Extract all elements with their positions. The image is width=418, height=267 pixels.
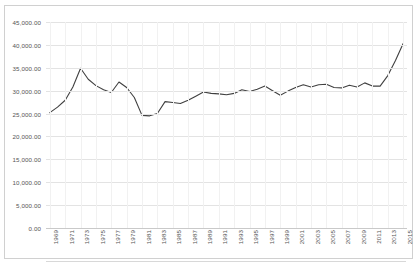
gridline-40000 [46, 45, 407, 46]
y-tick-label: 40,000.00 [13, 41, 41, 48]
line-series [46, 22, 407, 228]
x-tick-1975 [96, 22, 97, 228]
chart-container: 45,000.0040,000.0035,000.0030,000.0025,0… [0, 0, 418, 267]
x-tick-1999 [280, 22, 281, 228]
y-tick-label: 25,000.00 [13, 110, 41, 117]
x-tick-label: 1985 [175, 230, 182, 244]
y-tick-label: 0.00 [29, 225, 41, 232]
series-polyline [50, 44, 403, 116]
gridline-45000 [46, 22, 407, 23]
gridline-10000 [46, 182, 407, 183]
x-tick-2003 [311, 22, 312, 228]
x-tick-1969 [50, 22, 51, 228]
gridline-15000 [46, 159, 407, 160]
x-tick-label: 1979 [129, 230, 136, 244]
x-tick-label: 1991 [221, 230, 228, 244]
y-tick-label: 10,000.00 [13, 179, 41, 186]
x-tick-label: 1969 [52, 230, 59, 244]
x-tick-label: 1987 [191, 230, 198, 244]
x-tick-label: 1977 [114, 230, 121, 244]
y-tick-label: 35,000.00 [13, 64, 41, 71]
x-tick-1997 [265, 22, 266, 228]
x-tick-label: 1997 [268, 230, 275, 244]
gridline-35000 [46, 68, 407, 69]
y-tick-label: 5,000.00 [16, 202, 41, 209]
x-tick-1977 [111, 22, 112, 228]
x-tick-label: 1993 [237, 230, 244, 244]
x-tick-1991 [219, 22, 220, 228]
x-tick-label: 2003 [314, 230, 321, 244]
gridline-25000 [46, 114, 407, 115]
y-tick-label: 20,000.00 [13, 133, 41, 140]
x-tick-2007 [342, 22, 343, 228]
x-tick-label: 2001 [298, 230, 305, 244]
gridline-20000 [46, 136, 407, 137]
gridline-30000 [46, 91, 407, 92]
x-tick-label: 1975 [99, 230, 106, 244]
plot-area [46, 22, 407, 228]
x-tick-label: 1995 [252, 230, 259, 244]
x-tick-label: 2007 [344, 230, 351, 244]
x-tick-1971 [65, 22, 66, 228]
x-tick-label: 1973 [83, 230, 90, 244]
x-tick-1987 [188, 22, 189, 228]
x-tick-1983 [157, 22, 158, 228]
x-tick-2015 [403, 22, 404, 228]
x-tick-label: 1999 [283, 230, 290, 244]
y-tick-label: 30,000.00 [13, 87, 41, 94]
chart-bottom-rule [46, 261, 406, 262]
x-tick-1995 [250, 22, 251, 228]
y-axis-labels: 45,000.0040,000.0035,000.0030,000.0025,0… [0, 22, 44, 228]
x-tick-label: 1971 [68, 230, 75, 244]
gridline-5000 [46, 205, 407, 206]
x-tick-label: 2005 [329, 230, 336, 244]
x-axis-line [46, 228, 407, 229]
x-tick-2001 [296, 22, 297, 228]
x-tick-2011 [372, 22, 373, 228]
x-tick-2005 [326, 22, 327, 228]
x-tick-label: 2011 [375, 230, 382, 244]
x-tick-label: 1981 [145, 230, 152, 244]
x-tick-1989 [203, 22, 204, 228]
x-tick-label: 2015 [406, 230, 413, 244]
x-tick-label: 1983 [160, 230, 167, 244]
x-tick-label: 2009 [360, 230, 367, 244]
y-tick-label: 15,000.00 [13, 156, 41, 163]
x-tick-1981 [142, 22, 143, 228]
x-tick-label: 2013 [390, 230, 397, 244]
x-tick-1979 [127, 22, 128, 228]
x-tick-1985 [173, 22, 174, 228]
x-tick-2013 [388, 22, 389, 228]
x-axis-labels: 1969197119731975197719791981198319851987… [46, 230, 407, 262]
x-tick-1993 [234, 22, 235, 228]
y-tick-label: 45,000.00 [13, 19, 41, 26]
x-tick-label: 1989 [206, 230, 213, 244]
x-tick-2009 [357, 22, 358, 228]
x-tick-1973 [81, 22, 82, 228]
